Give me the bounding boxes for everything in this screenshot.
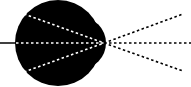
diagram-canvas <box>0 0 191 87</box>
diverging-rays <box>104 14 191 71</box>
outside-ray <box>104 14 183 43</box>
optics-diagram <box>0 0 191 87</box>
outside-ray <box>104 43 183 71</box>
